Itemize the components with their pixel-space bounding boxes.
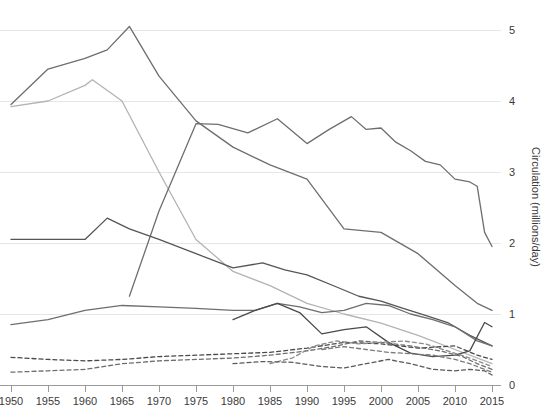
x-axis-group: 1950195519601965197019751980198519901995… <box>0 385 504 407</box>
gridlines-group <box>0 30 501 314</box>
series-line-series-7 <box>11 342 492 360</box>
series-group <box>11 26 492 375</box>
y-axis-title: Circulation (millions/day) <box>530 147 542 267</box>
y-tick-label-4: 4 <box>509 95 515 107</box>
series-line-series-1 <box>11 26 492 310</box>
series-line-series-10 <box>233 359 492 375</box>
series-line-series-2 <box>11 80 492 364</box>
x-tick-label-1955: 1955 <box>36 395 60 407</box>
series-line-series-3 <box>129 117 492 297</box>
y-tick-label-1: 1 <box>509 308 515 320</box>
x-tick-label-1980: 1980 <box>221 395 245 407</box>
series-line-series-5 <box>11 303 492 346</box>
x-tick-label-1985: 1985 <box>258 395 282 407</box>
x-tick-label-1965: 1965 <box>110 395 134 407</box>
x-tick-label-1950: 1950 <box>0 395 23 407</box>
series-line-series-8 <box>11 341 492 372</box>
y-tick-label-3: 3 <box>509 166 515 178</box>
x-tick-label-1960: 1960 <box>73 395 97 407</box>
y-axis-group: 012345 <box>509 24 515 391</box>
x-tick-label-2010: 2010 <box>443 395 467 407</box>
line-chart: 1950195519601965197019751980198519901995… <box>0 0 560 414</box>
x-tick-label-2000: 2000 <box>369 395 393 407</box>
x-tick-label-1970: 1970 <box>147 395 171 407</box>
y-tick-label-2: 2 <box>509 237 515 249</box>
y-tick-label-5: 5 <box>509 24 515 36</box>
x-tick-label-2015: 2015 <box>480 395 504 407</box>
series-line-series-4 <box>11 218 492 346</box>
chart-container: 1950195519601965197019751980198519901995… <box>0 0 560 414</box>
x-tick-label-1995: 1995 <box>332 395 356 407</box>
y-tick-label-0: 0 <box>509 379 515 391</box>
x-tick-label-1990: 1990 <box>295 395 319 407</box>
x-tick-label-2005: 2005 <box>406 395 430 407</box>
x-tick-label-1975: 1975 <box>184 395 208 407</box>
